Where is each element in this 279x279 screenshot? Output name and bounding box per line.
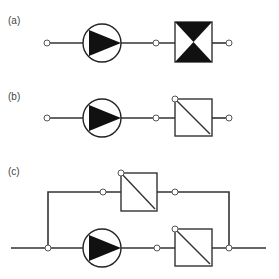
panel-c: (c): [8, 166, 266, 267]
pump-icon: [83, 99, 121, 137]
node-icon: [226, 40, 232, 46]
pump-icon: [83, 24, 121, 62]
filter-icon: [172, 226, 212, 266]
junction-node-icon: [226, 245, 232, 251]
node-icon: [44, 115, 50, 121]
panel-b: (b): [8, 91, 232, 137]
panel-a: (a): [8, 15, 232, 62]
node-icon: [44, 40, 50, 46]
node-icon: [172, 189, 178, 195]
panel-b-label: (b): [8, 91, 20, 102]
valve-hourglass-icon: [175, 22, 212, 62]
node-icon: [100, 189, 106, 195]
junction-node-icon: [45, 245, 51, 251]
filter-icon: [172, 96, 212, 136]
panel-a-label: (a): [8, 15, 20, 26]
node-icon: [153, 115, 159, 121]
filter-icon: [118, 170, 157, 211]
node-icon: [226, 115, 232, 121]
node-icon: [153, 40, 159, 46]
node-icon: [154, 245, 160, 251]
diagram-canvas: (a) (b): [0, 0, 279, 279]
pump-icon: [83, 229, 121, 267]
panel-c-label: (c): [8, 166, 20, 177]
